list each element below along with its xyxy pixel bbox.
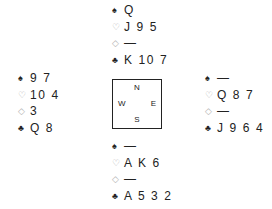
west-hearts-cards: 10 4 [30, 87, 60, 104]
club-icon: ♣ [112, 188, 124, 205]
south-hearts-cards: A K 6 [124, 155, 161, 172]
south-clubs-row: ♣ A 5 3 2 [112, 188, 173, 205]
east-diamonds-cards: — [217, 103, 231, 120]
north-diamonds-cards: — [124, 35, 138, 52]
club-icon: ♣ [112, 52, 124, 69]
east-clubs-cards: J 9 6 4 [217, 120, 264, 137]
diamond-icon: ◇ [205, 103, 217, 120]
heart-icon: ♡ [112, 155, 124, 172]
diamond-icon: ◇ [18, 103, 30, 120]
compass-west-label: W [118, 100, 126, 108]
spade-icon: ♠ [18, 70, 30, 87]
club-icon: ♣ [205, 120, 217, 137]
west-hearts-row: ♡ 10 4 [18, 87, 60, 104]
west-clubs-row: ♣ Q 8 [18, 120, 60, 137]
west-diamonds-row: ◇ 3 [18, 103, 60, 120]
west-spades-cards: 9 7 [30, 70, 51, 87]
spade-icon: ♠ [205, 70, 217, 87]
south-spades-row: ♠ — [112, 138, 173, 155]
south-diamonds-row: ◇ — [112, 171, 173, 188]
south-diamonds-cards: — [124, 171, 138, 188]
east-spades-row: ♠ — [205, 70, 264, 87]
west-hand: ♠ 9 7 ♡ 10 4 ◇ 3 ♣ Q 8 [18, 70, 60, 136]
spade-icon: ♠ [112, 138, 124, 155]
club-icon: ♣ [18, 120, 30, 137]
north-hearts-row: ♡ J 9 5 [112, 19, 168, 36]
north-spades-row: ♠ Q [112, 2, 168, 19]
west-diamonds-cards: 3 [30, 103, 38, 120]
east-diamonds-row: ◇ — [205, 103, 264, 120]
compass-north-label: N [134, 84, 140, 92]
north-hearts-cards: J 9 5 [124, 19, 158, 36]
north-hand: ♠ Q ♡ J 9 5 ◇ — ♣ K 10 7 [112, 2, 168, 68]
heart-icon: ♡ [205, 87, 217, 104]
compass-box: N W E S [112, 79, 162, 129]
south-hearts-row: ♡ A K 6 [112, 155, 173, 172]
spade-icon: ♠ [112, 2, 124, 19]
south-hand: ♠ — ♡ A K 6 ◇ — ♣ A 5 3 2 [112, 138, 173, 204]
north-diamonds-row: ◇ — [112, 35, 168, 52]
east-hand: ♠ — ♡ Q 8 7 ◇ — ♣ J 9 6 4 [205, 70, 264, 136]
diamond-icon: ◇ [112, 35, 124, 52]
compass-south-label: S [134, 116, 139, 124]
east-hearts-cards: Q 8 7 [217, 87, 254, 104]
north-clubs-cards: K 10 7 [124, 52, 168, 69]
south-clubs-cards: A 5 3 2 [124, 188, 173, 205]
heart-icon: ♡ [18, 87, 30, 104]
north-spades-cards: Q [124, 2, 135, 19]
east-clubs-row: ♣ J 9 6 4 [205, 120, 264, 137]
diamond-icon: ◇ [112, 171, 124, 188]
heart-icon: ♡ [112, 19, 124, 36]
west-clubs-cards: Q 8 [30, 120, 54, 137]
west-spades-row: ♠ 9 7 [18, 70, 60, 87]
north-clubs-row: ♣ K 10 7 [112, 52, 168, 69]
east-hearts-row: ♡ Q 8 7 [205, 87, 264, 104]
south-spades-cards: — [124, 138, 138, 155]
compass-east-label: E [151, 100, 156, 108]
east-spades-cards: — [217, 70, 231, 87]
